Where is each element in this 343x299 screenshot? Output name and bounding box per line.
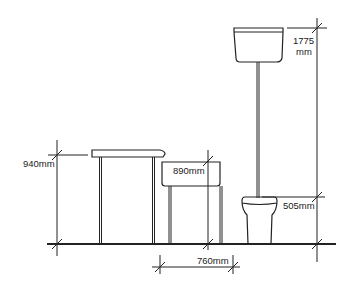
dim-label-1775-unit: mm (296, 47, 312, 57)
dim-label-940: 940mm (23, 159, 55, 169)
dim-label-505: 505mm (283, 201, 315, 211)
counter-top (92, 150, 165, 157)
sanitary-diagram (0, 0, 343, 299)
dim-label-1775: 1775 (293, 36, 314, 46)
dim-label-890: 890mm (173, 166, 205, 176)
cistern (234, 28, 283, 62)
toilet-pan (242, 197, 277, 244)
dim-label-760: 760mm (197, 256, 229, 266)
